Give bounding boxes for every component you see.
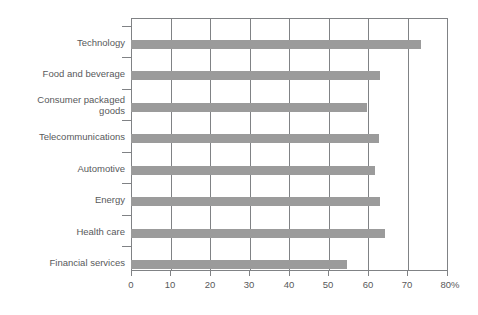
bar-chart: Technology Food and beverage Consumer pa…: [0, 0, 478, 315]
x-tick-label-10: 10: [165, 279, 176, 291]
x-tick-mark: [368, 271, 369, 276]
x-tick-label-20: 20: [205, 279, 216, 291]
x-tick-mark: [210, 271, 211, 276]
bar-food-and-beverage: [131, 71, 380, 80]
category-label-consumer-packaged-goods: Consumer packaged goods: [0, 94, 125, 116]
x-tick-mark: [447, 271, 448, 276]
x-tick-label-50: 50: [323, 279, 334, 291]
bar-technology: [131, 40, 421, 49]
bar-automotive: [131, 166, 375, 175]
x-tick-mark: [289, 271, 290, 276]
category-label-automotive: Automotive: [0, 163, 125, 174]
category-label-telecommunications: Telecommunications: [0, 131, 125, 142]
bar-energy: [131, 197, 380, 206]
category-label-financial-services: Financial services: [0, 257, 125, 268]
x-tick-label-80: 80%: [440, 279, 459, 291]
x-tick-label-60: 60: [363, 279, 374, 291]
x-tick-mark: [170, 271, 171, 276]
x-tick-label-30: 30: [244, 279, 255, 291]
bar-health-care: [131, 229, 385, 238]
category-label-technology: Technology: [0, 37, 125, 48]
category-label-food-and-beverage: Food and beverage: [0, 68, 125, 79]
bar-consumer-packaged-goods: [131, 103, 367, 112]
bar-financial-services: [131, 260, 347, 269]
category-axis: Technology Food and beverage Consumer pa…: [0, 18, 125, 271]
x-tick-label-40: 40: [284, 279, 295, 291]
category-label-energy: Energy: [0, 194, 125, 205]
x-tick-label-0: 0: [128, 279, 133, 291]
bar-telecommunications: [131, 134, 379, 143]
x-tick-label-70: 70: [402, 279, 413, 291]
x-tick-mark: [131, 271, 132, 276]
gridline: [408, 19, 409, 270]
category-label-health-care: Health care: [0, 226, 125, 237]
x-tick-mark: [407, 271, 408, 276]
x-tick-mark: [249, 271, 250, 276]
x-tick-mark: [328, 271, 329, 276]
